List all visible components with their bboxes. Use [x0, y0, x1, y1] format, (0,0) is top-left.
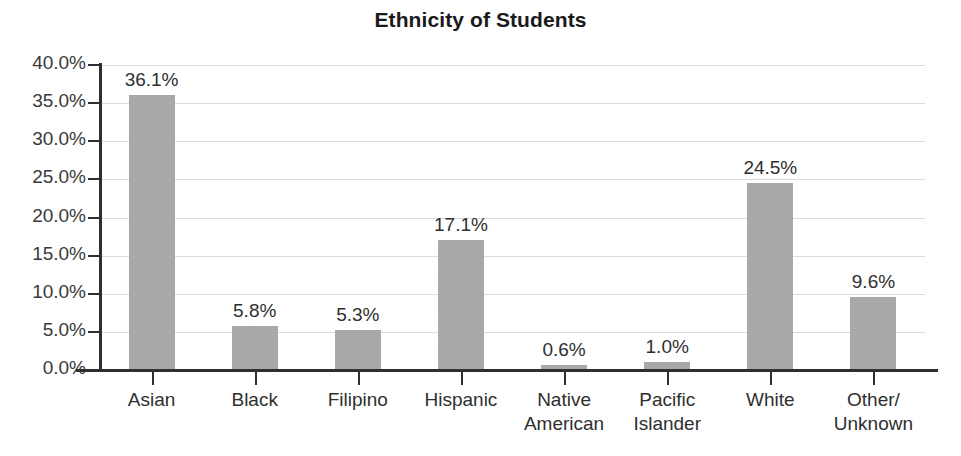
bar-value-label: 9.6%	[813, 271, 933, 293]
y-axis-tick-mark	[88, 331, 100, 333]
x-axis-tick-mark	[255, 372, 257, 385]
y-axis-tick-label: 0.0%	[2, 357, 86, 379]
y-axis-tick-labels: 0.0%5.0%10.0%15.0%20.0%25.0%30.0%35.0%40…	[0, 0, 86, 456]
y-axis-tick-label: 20.0%	[2, 205, 86, 227]
y-axis-tick-label: 35.0%	[2, 90, 86, 112]
y-axis-tick-mark	[88, 178, 100, 180]
x-axis-tick-mark	[152, 372, 154, 385]
x-axis-tick-mark	[667, 372, 669, 385]
y-axis-tick-label: 5.0%	[2, 319, 86, 341]
bar-value-label: 24.5%	[710, 157, 830, 179]
x-axis-tick-mark	[358, 372, 360, 385]
bar[interactable]	[232, 326, 278, 370]
gridline	[100, 332, 925, 333]
x-axis-tick-mark	[873, 372, 875, 385]
gridline	[100, 141, 925, 142]
gridline	[100, 65, 925, 66]
y-axis-tick-mark	[88, 64, 100, 66]
chart-title: Ethnicity of Students	[0, 8, 961, 32]
y-axis-tick-mark	[88, 217, 100, 219]
y-axis-tick-label: 10.0%	[2, 281, 86, 303]
bar[interactable]	[438, 240, 484, 370]
x-axis-category-label: Other/ Unknown	[811, 388, 935, 436]
bar-value-label: 1.0%	[607, 336, 727, 358]
y-axis-tick-mark	[88, 293, 100, 295]
bar-value-label: 5.3%	[298, 304, 418, 326]
y-axis-tick-label: 25.0%	[2, 166, 86, 188]
bar[interactable]	[335, 330, 381, 370]
bar-value-label: 36.1%	[92, 69, 212, 91]
gridline	[100, 294, 925, 295]
bar[interactable]	[747, 183, 793, 370]
y-axis-tick-mark	[88, 102, 100, 104]
gridline	[100, 256, 925, 257]
bar[interactable]	[129, 95, 175, 370]
y-axis-tick-mark	[88, 369, 100, 371]
bar-value-label: 17.1%	[401, 214, 521, 236]
x-axis-line	[76, 369, 938, 372]
y-axis-tick-mark	[88, 140, 100, 142]
y-axis-tick-label: 15.0%	[2, 243, 86, 265]
bar-value-label: 0.6%	[504, 339, 624, 361]
y-axis-tick-mark	[88, 255, 100, 257]
gridline	[100, 103, 925, 104]
x-axis-tick-mark	[461, 372, 463, 385]
y-axis-tick-label: 40.0%	[2, 52, 86, 74]
x-axis-tick-mark	[770, 372, 772, 385]
y-axis-tick-label: 30.0%	[2, 128, 86, 150]
gridline	[100, 179, 925, 180]
x-axis-tick-mark	[564, 372, 566, 385]
bar-chart: Ethnicity of Students 0.0%5.0%10.0%15.0%…	[0, 0, 961, 456]
bar[interactable]	[850, 297, 896, 370]
bar-value-label: 5.8%	[195, 300, 315, 322]
